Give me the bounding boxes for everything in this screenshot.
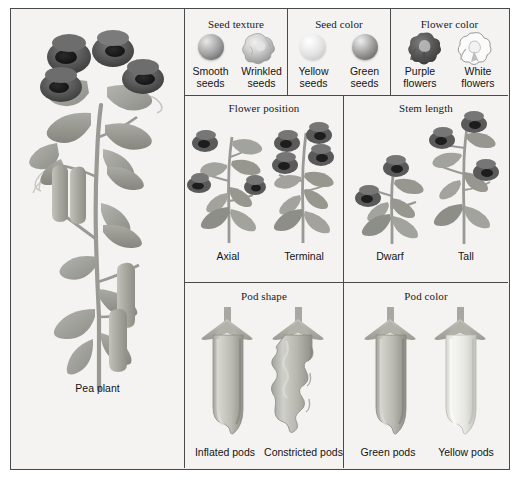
caption-smooth-seeds: Smooth seeds <box>185 66 236 89</box>
panel-pea-plant: Pea plant <box>11 9 185 468</box>
caption-green-pods: Green pods <box>348 447 428 459</box>
constricted-pod-icon <box>267 307 331 439</box>
caption-line-2: seeds <box>299 77 327 89</box>
panel-seed-texture: Seed texture Smooth seeds Wri <box>185 9 288 96</box>
caption-line-2: seeds <box>350 77 378 89</box>
panel-title-seed-texture: Seed texture <box>185 18 287 30</box>
caption-axial: Axial <box>189 251 267 263</box>
caption-constricted-pods: Constricted pods <box>263 447 344 459</box>
panel-pod-shape: Pod shape <box>185 283 344 468</box>
terminal-flower-plant-icon <box>265 121 343 243</box>
panel-title-pod-shape: Pod shape <box>185 290 343 302</box>
caption-line-2: flowers <box>461 77 494 89</box>
caption-terminal: Terminal <box>265 251 343 263</box>
pea-plant-caption: Pea plant <box>11 383 184 395</box>
caption-line-1: Wrinkled <box>241 65 282 77</box>
figure-frame: Pea plant Seed texture Smooth <box>10 8 510 470</box>
panel-stem-length: Stem length <box>344 96 508 283</box>
panel-seed-color: Seed color Yellow seeds Green seeds <box>288 9 391 96</box>
wrinkled-seed-icon <box>243 32 275 62</box>
caption-green-seeds: Green seeds <box>339 66 390 89</box>
white-flower-icon <box>457 31 491 65</box>
caption-line-1: Purple <box>405 65 435 77</box>
caption-line-2: seeds <box>196 77 224 89</box>
pea-plant-illustration-icon <box>17 17 179 389</box>
panel-flower-position: Flower position <box>185 96 344 283</box>
axial-flower-plant-icon <box>189 121 267 243</box>
caption-white-flowers: White flowers <box>449 66 507 89</box>
caption-tall: Tall <box>428 251 504 263</box>
caption-line-2: seeds <box>247 77 275 89</box>
yellow-seed-sphere-icon <box>300 34 326 60</box>
caption-line-1: Yellow <box>299 65 329 77</box>
tall-stem-plant-icon <box>424 114 504 244</box>
inflated-pod-icon <box>197 307 259 439</box>
green-seed-sphere-icon <box>352 34 378 60</box>
caption-dwarf: Dwarf <box>352 251 428 263</box>
caption-yellow-seeds: Yellow seeds <box>288 66 339 89</box>
mendel-pea-traits-figure: Pea plant Seed texture Smooth <box>0 0 519 481</box>
caption-line-1: Smooth <box>192 65 228 77</box>
caption-wrinkled-seeds: Wrinkled seeds <box>236 66 287 89</box>
panel-title-pod-color: Pod color <box>344 290 508 302</box>
panel-title-flower-position: Flower position <box>185 102 343 114</box>
smooth-seed-sphere-icon <box>198 34 224 60</box>
caption-line-1: Green <box>350 65 379 77</box>
panel-pod-color: Pod color <box>344 283 508 468</box>
panel-flower-color: Flower color Pur <box>391 9 508 96</box>
purple-flower-icon <box>407 31 441 65</box>
panel-title-seed-color: Seed color <box>288 18 390 30</box>
caption-line-1: White <box>465 65 492 77</box>
caption-inflated-pods: Inflated pods <box>185 447 265 459</box>
caption-yellow-pods: Yellow pods <box>426 447 506 459</box>
panel-title-stem-length: Stem length <box>344 102 508 114</box>
caption-purple-flowers: Purple flowers <box>391 66 449 89</box>
yellow-pod-icon <box>430 307 492 439</box>
panel-title-flower-color: Flower color <box>391 18 508 30</box>
caption-line-2: flowers <box>403 77 436 89</box>
dwarf-stem-plant-icon <box>352 156 428 244</box>
green-pod-icon <box>360 307 422 439</box>
